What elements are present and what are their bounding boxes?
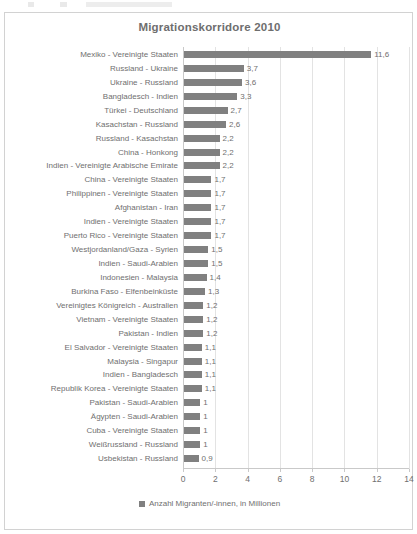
x-tick-label: 10	[340, 474, 349, 484]
x-tick-label: 14	[404, 474, 413, 484]
top-strip-mark-2	[60, 2, 67, 7]
bar	[184, 413, 200, 420]
bar-value-label: 1	[203, 437, 207, 452]
x-tick-mark	[312, 469, 313, 472]
top-strip-mark-1	[28, 2, 34, 7]
bar-value-label: 3,7	[247, 61, 258, 76]
bar-value-label: 1	[203, 409, 207, 424]
bar	[184, 288, 205, 295]
category-label: Kasachstan - Russland	[96, 117, 178, 132]
bar	[184, 441, 200, 448]
x-tick-mark	[215, 469, 216, 472]
bar	[184, 344, 202, 351]
bar-row: Vereinigtes Königreich - Australien1,2	[183, 298, 409, 313]
bar-value-label: 1,7	[214, 200, 225, 215]
chart-legend: Anzahl Migranten/-innen, in Millionen	[5, 499, 414, 508]
bar-row: Republik Korea - Vereinigte Staaten1,1	[183, 381, 409, 396]
bar-value-label: 2,7	[231, 103, 242, 118]
bar-row: Bangladesch - Indien3,3	[183, 89, 409, 104]
x-tick-mark	[280, 469, 281, 472]
bar-value-label: 1,2	[206, 312, 217, 327]
bar-value-label: 1,4	[210, 270, 221, 285]
category-label: Pakistan - Indien	[118, 326, 178, 341]
bar-row: Russland - Kasachstan2,2	[183, 131, 409, 146]
bar	[184, 162, 220, 169]
bar-row: Pakistan - Indien1,2	[183, 326, 409, 341]
bar	[184, 232, 211, 239]
bar	[184, 246, 208, 253]
top-strip-mark-3	[86, 2, 172, 7]
bar-value-label: 1,3	[208, 284, 219, 299]
bar	[184, 427, 200, 434]
bar-row: Ukraine - Russland3,6	[183, 75, 409, 90]
bar-row: Afghanistan - Iran1,7	[183, 200, 409, 215]
bar-row: Puerto Rico - Vereinigte Staaten1,7	[183, 228, 409, 243]
chart-title: Migrationskorridore 2010	[5, 21, 414, 33]
bar-row: Usbekistan - Russland0,9	[183, 451, 409, 466]
bar	[184, 358, 202, 365]
bar-value-label: 1,7	[214, 228, 225, 243]
x-tick-mark	[409, 469, 410, 472]
category-label: Ägypten - Saudi-Arabien	[91, 409, 178, 424]
bar-row: Vietnam - Vereinigte Staaten1,2	[183, 312, 409, 327]
bar	[184, 121, 226, 128]
category-label: Indien - Saudi-Arabien	[98, 256, 178, 271]
bar-value-label: 2,2	[223, 158, 234, 173]
bar	[184, 135, 220, 142]
bar-value-label: 3,6	[245, 75, 256, 90]
bar-value-label: 1,1	[205, 340, 216, 355]
bar-value-label: 1,1	[205, 367, 216, 382]
x-tick-label: 8	[310, 474, 315, 484]
page-top-strip	[0, 0, 417, 10]
category-label: Malaysia - Singapur	[107, 354, 178, 369]
category-label: Türkei - Deutschland	[104, 103, 178, 118]
bar-value-label: 2,2	[223, 145, 234, 160]
x-tick-mark	[344, 469, 345, 472]
category-label: Republik Korea - Vereinigte Staaten	[51, 381, 178, 396]
bar-value-label: 1,5	[211, 256, 222, 271]
category-label: Cuba - Vereinigte Staaten	[86, 423, 178, 438]
bar	[184, 204, 211, 211]
bar-value-label: 2,6	[229, 117, 240, 132]
bar	[184, 93, 237, 100]
bar	[184, 316, 203, 323]
bar-value-label: 1	[203, 395, 207, 410]
bar-value-label: 0,9	[202, 451, 213, 466]
category-label: Vietnam - Vereinigte Staaten	[76, 312, 178, 327]
x-tick-label: 0	[181, 474, 186, 484]
category-label: Mexiko - Vereinigte Staaten	[80, 47, 178, 62]
bar-row: El Salvador - Vereinigte Staaten1,1	[183, 340, 409, 355]
bar-row: Russland - Ukraine3,7	[183, 61, 409, 76]
bar-value-label: 1,1	[205, 354, 216, 369]
bar	[184, 107, 228, 114]
bar-value-label: 1,1	[205, 381, 216, 396]
bar-row: Malaysia - Singapur1,1	[183, 354, 409, 369]
bar-value-label: 1,7	[214, 214, 225, 229]
bar-row: Weißrussland - Russland1	[183, 437, 409, 452]
bar-row: Philippinen - Vereinigte Staaten1,7	[183, 186, 409, 201]
category-label: El Salvador - Vereinigte Staaten	[65, 340, 178, 355]
x-tick-mark	[183, 469, 184, 472]
bar	[184, 176, 211, 183]
category-label: Puerto Rico - Vereinigte Staaten	[64, 228, 178, 243]
chart-frame: Migrationskorridore 2010 Mexiko - Verein…	[4, 12, 413, 530]
category-label: Indonesien - Malaysia	[100, 270, 178, 285]
bar-row: Indonesien - Malaysia1,4	[183, 270, 409, 285]
bar-row: Türkei - Deutschland2,7	[183, 103, 409, 118]
bar	[184, 218, 211, 225]
x-tick-label: 6	[277, 474, 282, 484]
bar-value-label: 1,2	[206, 298, 217, 313]
bar	[184, 190, 211, 197]
bar-value-label: 1	[203, 423, 207, 438]
bar-value-label: 1,5	[211, 242, 222, 257]
category-label: Philippinen - Vereinigte Staaten	[66, 186, 178, 201]
bar	[184, 260, 208, 267]
bar-row: Burkina Faso - Elfenbeinküste1,3	[183, 284, 409, 299]
category-label: Pakistan - Saudi-Arabien	[90, 395, 179, 410]
x-tick-label: 2	[213, 474, 218, 484]
bar-value-label: 1,7	[214, 186, 225, 201]
category-label: Vereinigtes Königreich - Australien	[56, 298, 178, 313]
category-label: Russland - Kasachstan	[96, 131, 178, 146]
legend-swatch-icon	[139, 501, 145, 507]
bar	[184, 274, 207, 281]
